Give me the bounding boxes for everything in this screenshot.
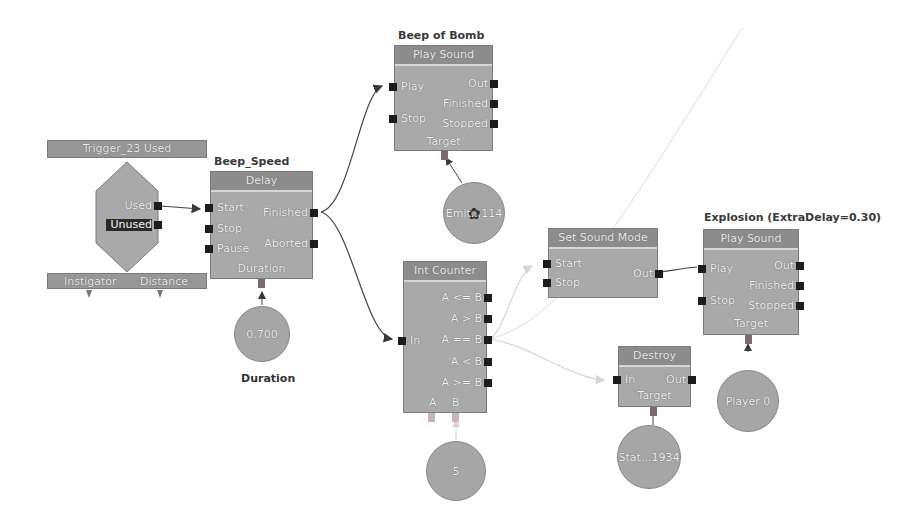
sound-mode-node-title: Set Sound Mode (549, 229, 657, 249)
beep-input-play[interactable]: Play (399, 81, 424, 93)
counter-input-in[interactable]: In (408, 335, 420, 347)
player-variable[interactable]: Player 0 (717, 370, 779, 432)
delay-node[interactable]: Delay Start Stop Pause Finished Aborted … (210, 171, 313, 279)
counter-node-title: Int Counter (404, 262, 486, 282)
counter-a-stub[interactable] (428, 413, 435, 422)
destroy-input-in[interactable]: In (623, 374, 635, 386)
delay-output-aborted[interactable]: Aborted (264, 238, 308, 250)
delay-input-stop[interactable]: Stop (215, 223, 242, 235)
event-var-distance[interactable]: Distance (140, 274, 188, 290)
destroy-target-stub[interactable] (650, 407, 657, 416)
destroy-node-title: Destroy (619, 347, 690, 367)
destroy-var-target-label: Target (619, 389, 690, 402)
beep-output-out[interactable]: Out (468, 78, 488, 90)
sound-mode-input-stop[interactable]: Stop (553, 277, 580, 289)
counter-output-gte[interactable]: A >= B (442, 377, 483, 389)
delay-var-duration-label: Duration (211, 262, 312, 275)
beep-output-finished[interactable]: Finished (443, 98, 488, 110)
counter-output-eq[interactable]: A == B (442, 334, 483, 346)
counter-var-a-label: A (429, 397, 437, 409)
counter-b-stub[interactable] (452, 413, 459, 422)
event-title-bar[interactable]: Trigger_23 Used (47, 140, 207, 158)
beep-target-stub[interactable] (441, 151, 448, 160)
int-b-variable[interactable]: 5 (426, 441, 486, 501)
explosion-output-out[interactable]: Out (774, 260, 794, 272)
counter-output-lt[interactable]: A < B (451, 356, 482, 368)
event-variables-bar: Instigator Distance (47, 273, 207, 289)
explosion-input-stop[interactable]: Stop (708, 295, 735, 307)
set-sound-mode-node[interactable]: Set Sound Mode Start Stop Out (548, 228, 658, 298)
beep-play-sound-node[interactable]: Play Sound Play Stop Out Finished Stoppe… (394, 45, 493, 151)
delay-output-finished[interactable]: Finished (263, 207, 308, 219)
counter-output-gt[interactable]: A > B (451, 313, 482, 325)
delay-duration-stub[interactable] (258, 279, 265, 288)
explosion-node-title: Play Sound (704, 230, 798, 250)
explosion-output-finished[interactable]: Finished (749, 280, 794, 292)
sound-mode-input-start[interactable]: Start (553, 258, 582, 270)
explosion-target-stub[interactable] (745, 335, 752, 344)
delay-input-start[interactable]: Start (215, 202, 244, 214)
beep-input-stop[interactable]: Stop (399, 113, 426, 125)
explosion-var-target-label: Target (704, 317, 798, 330)
beep-output-stopped[interactable]: Stopped (442, 118, 488, 130)
explosion-output-stopped[interactable]: Stopped (748, 300, 794, 312)
static-mesh-variable[interactable]: Stat...1934 (617, 425, 681, 489)
destroy-output-out[interactable]: Out (666, 374, 686, 386)
beep-node-title: Play Sound (395, 46, 492, 66)
event-title: Trigger_23 Used (83, 142, 171, 155)
duration-variable-caption: Duration (241, 372, 295, 385)
counter-output-lte[interactable]: A <= B (442, 292, 483, 304)
event-hexagon[interactable] (95, 161, 159, 273)
delay-input-pause[interactable]: Pause (215, 243, 249, 255)
explosion-play-sound-node[interactable]: Play Sound Play Stop Out Finished Stoppe… (703, 229, 799, 335)
delay-node-label: Beep_Speed (214, 155, 289, 168)
delay-node-title: Delay (211, 172, 312, 192)
emitter-variable[interactable]: ✿ Emit...114 (443, 182, 505, 244)
event-output-unused[interactable]: Unused (106, 219, 152, 231)
duration-variable[interactable]: 0.700 (234, 306, 290, 362)
event-output-used[interactable]: Used (110, 200, 152, 212)
counter-var-b-label: B (452, 397, 460, 409)
beep-node-label: Beep of Bomb (398, 29, 484, 42)
explosion-input-play[interactable]: Play (708, 263, 733, 275)
kismet-canvas[interactable]: Trigger_23 Used Used Unused Instigator D… (0, 0, 922, 526)
explosion-node-label: Explosion (ExtraDelay=0.30) (704, 211, 881, 224)
event-var-instigator[interactable]: Instigator (64, 274, 117, 290)
sound-mode-output-out[interactable]: Out (633, 268, 653, 280)
destroy-node[interactable]: Destroy In Out Target (618, 346, 691, 407)
int-counter-node[interactable]: Int Counter In A <= B A > B A == B A < B… (403, 261, 487, 413)
beep-var-target-label: Target (395, 135, 492, 148)
